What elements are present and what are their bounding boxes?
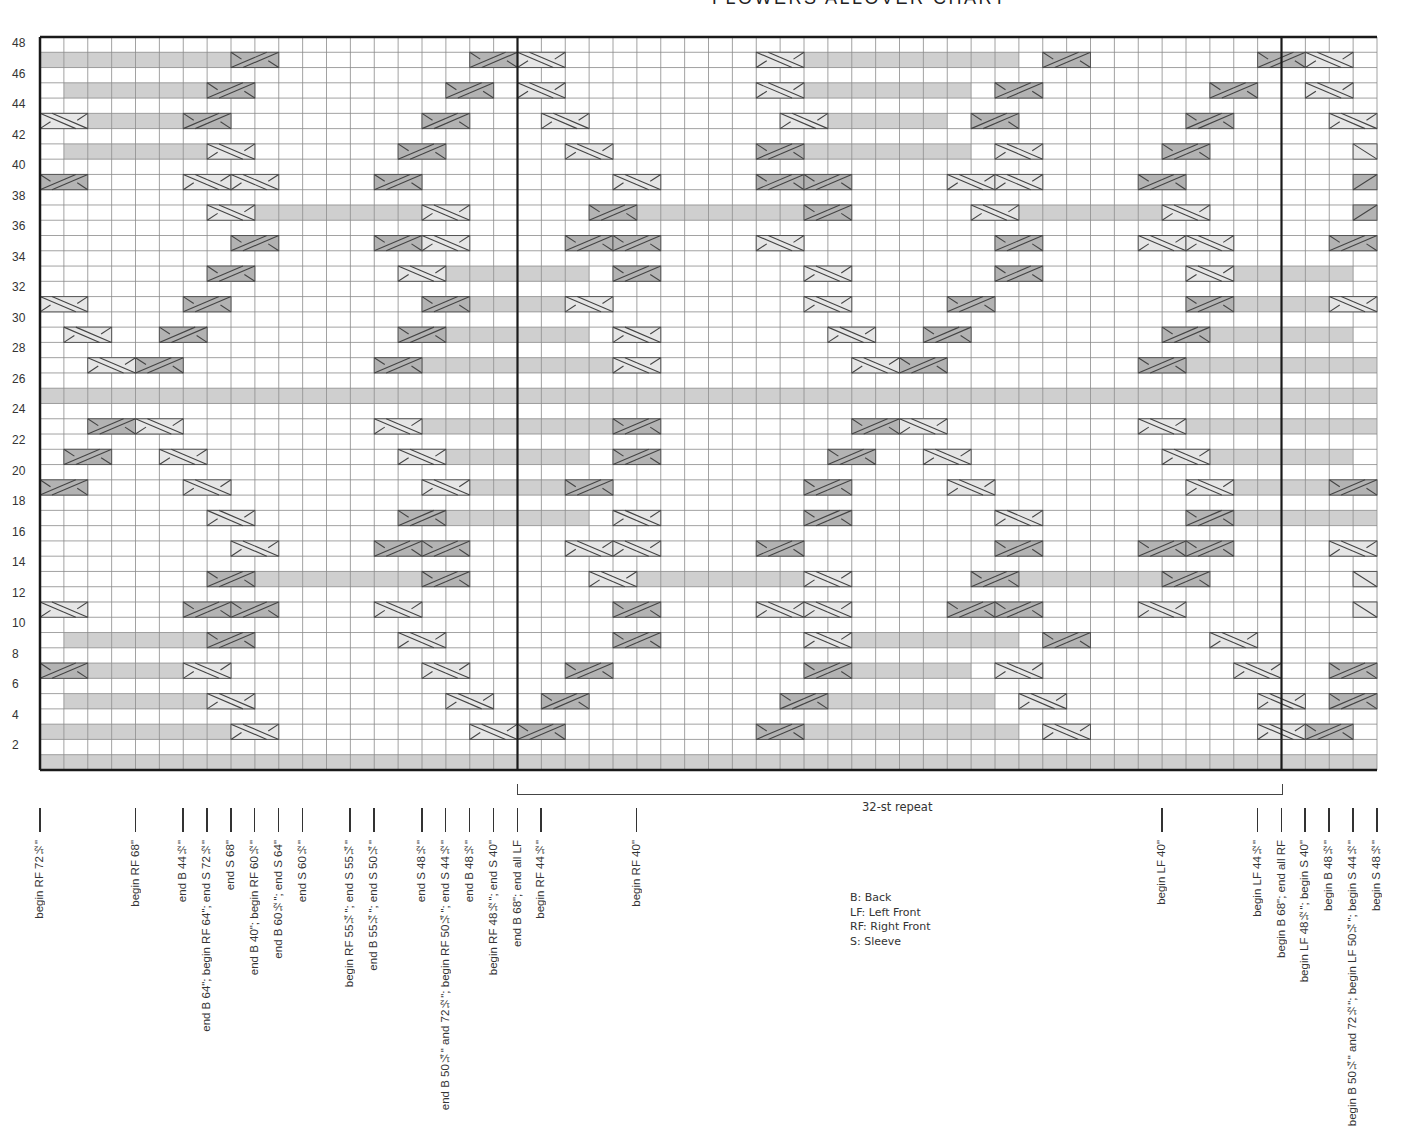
right-cross-cable-icon xyxy=(1353,571,1377,586)
row-number-label: 14 xyxy=(12,555,32,569)
left-cross-cable-icon xyxy=(804,205,852,220)
right-cross-cable-icon xyxy=(589,571,637,586)
left-cross-cable-icon xyxy=(756,174,804,189)
row-number-label: 4 xyxy=(12,708,32,722)
marker-label: end B 40"; begin RF 60½" xyxy=(248,840,260,975)
left-cross-cable-icon xyxy=(613,602,661,617)
right-cross-cable-icon xyxy=(518,52,566,67)
legend-right-front: RF: Right Front xyxy=(850,920,931,935)
left-cross-cable-icon xyxy=(900,358,948,373)
marker-label: end B 64"; begin RF 64"; end S 72½" xyxy=(200,840,212,1032)
right-cross-cable-icon xyxy=(207,205,255,220)
row-number-label: 20 xyxy=(12,464,32,478)
right-cross-cable-icon xyxy=(613,327,661,342)
right-cross-cable-icon xyxy=(1138,236,1186,251)
right-cross-cable-icon xyxy=(1329,113,1377,128)
right-cross-cable-icon xyxy=(1138,419,1186,434)
right-cross-cable-icon xyxy=(947,480,995,495)
right-cross-cable-icon xyxy=(756,52,804,67)
left-cross-cable-icon xyxy=(804,480,852,495)
left-cross-cable-icon xyxy=(40,480,88,495)
marker-label: begin RF 68" xyxy=(129,840,141,907)
marker-label: begin LF 44½" xyxy=(1251,840,1263,917)
row-number-label: 22 xyxy=(12,433,32,447)
right-cross-cable-icon xyxy=(136,419,184,434)
left-cross-cable-icon xyxy=(183,113,231,128)
right-cross-cable-icon xyxy=(1353,602,1377,617)
left-cross-cable-icon xyxy=(565,663,613,678)
right-cross-cable-icon xyxy=(565,297,613,312)
marker-tick xyxy=(254,808,256,832)
right-cross-cable-icon xyxy=(88,358,136,373)
right-cross-cable-icon xyxy=(1186,236,1234,251)
marker-tick xyxy=(1352,808,1354,832)
right-cross-cable-icon xyxy=(159,449,207,464)
marker-label: begin B 50¼" and 72½"; begin LF 50¼"; be… xyxy=(1346,840,1358,1126)
left-cross-cable-icon xyxy=(1186,297,1234,312)
right-cross-cable-icon xyxy=(374,602,422,617)
row-number-label: 44 xyxy=(12,97,32,111)
left-cross-cable-icon xyxy=(183,602,231,617)
marker-tick xyxy=(135,808,137,832)
right-cross-cable-icon xyxy=(231,724,279,739)
left-cross-cable-icon xyxy=(1162,327,1210,342)
marker-tick xyxy=(182,808,184,832)
left-cross-cable-icon xyxy=(1329,480,1377,495)
marker-label: end B 44½" xyxy=(176,840,188,902)
left-cross-cable-icon xyxy=(613,449,661,464)
left-cross-cable-icon xyxy=(136,358,184,373)
left-cross-cable-icon xyxy=(1186,510,1234,525)
left-cross-cable-icon xyxy=(613,236,661,251)
marker-label: begin LF 48½"; begin S 40" xyxy=(1298,840,1310,982)
left-cross-cable-icon xyxy=(422,113,470,128)
right-cross-cable-icon xyxy=(995,144,1043,159)
marker-tick xyxy=(517,808,519,832)
marker-label: end S 48½" xyxy=(415,840,427,902)
marker-label: begin B 48½" xyxy=(1322,840,1334,911)
left-cross-cable-icon xyxy=(971,571,1019,586)
marker-label: begin S 48½" xyxy=(1370,840,1382,911)
left-cross-cable-icon xyxy=(470,52,518,67)
marker-label: begin RF 55¼"; end S 55¼" xyxy=(343,840,355,987)
right-cross-cable-icon xyxy=(995,663,1043,678)
left-cross-cable-icon xyxy=(231,236,279,251)
left-cross-cable-icon xyxy=(1329,236,1377,251)
left-cross-cable-icon xyxy=(40,663,88,678)
marker-label: begin RF 48½"; end S 40" xyxy=(487,840,499,975)
left-cross-cable-icon xyxy=(565,236,613,251)
marker-tick xyxy=(493,808,495,832)
row-number-label: 12 xyxy=(12,586,32,600)
marker-tick xyxy=(540,808,542,832)
right-cross-cable-icon xyxy=(565,541,613,556)
right-cross-cable-icon xyxy=(422,236,470,251)
left-cross-cable-icon xyxy=(1329,663,1377,678)
marker-label: end B 60½"; end S 64" xyxy=(272,840,284,959)
right-cross-cable-icon xyxy=(971,205,1019,220)
marker-tick xyxy=(39,808,41,832)
marker-label: end S 68" xyxy=(224,840,236,890)
left-cross-cable-icon xyxy=(1186,541,1234,556)
marker-tick xyxy=(1328,808,1330,832)
right-cross-cable-icon xyxy=(804,602,852,617)
left-cross-cable-icon xyxy=(995,83,1043,98)
right-cross-cable-icon xyxy=(183,174,231,189)
right-cross-cable-icon xyxy=(756,602,804,617)
left-cross-cable-icon xyxy=(374,174,422,189)
right-cross-cable-icon xyxy=(422,663,470,678)
marker-label: begin RF 40" xyxy=(630,840,642,907)
left-cross-cable-icon xyxy=(589,205,637,220)
right-cross-cable-icon xyxy=(1162,205,1210,220)
marker-label: end B 50¼" and 72½"; begin RF 50¼"; end … xyxy=(439,840,451,1110)
row-number-label: 2 xyxy=(12,738,32,752)
right-cross-cable-icon xyxy=(804,571,852,586)
right-cross-cable-icon xyxy=(995,510,1043,525)
row-number-label: 42 xyxy=(12,128,32,142)
left-cross-cable-icon xyxy=(207,633,255,648)
repeat-bracket xyxy=(517,784,1283,795)
right-cross-cable-icon xyxy=(231,541,279,556)
right-cross-cable-icon xyxy=(613,510,661,525)
left-cross-cable-icon xyxy=(1138,358,1186,373)
row-number-label: 6 xyxy=(12,677,32,691)
row-number-label: 26 xyxy=(12,372,32,386)
left-cross-cable-icon xyxy=(613,633,661,648)
